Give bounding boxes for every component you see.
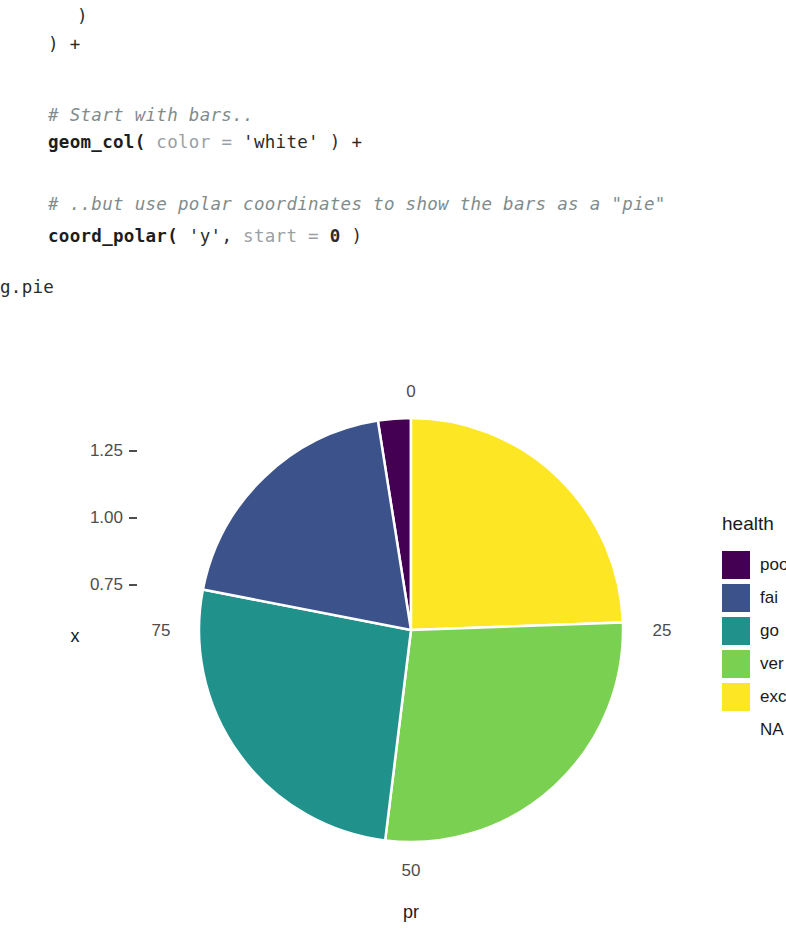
code-line: coord_polar( 'y', start = 0 )	[48, 228, 362, 246]
legend-item[interactable]: ver	[722, 650, 786, 678]
code-token: 'y'	[178, 226, 221, 246]
legend-item-label: ver	[760, 654, 784, 674]
legend-item[interactable]: poo	[722, 551, 786, 579]
code-token: # Start with bars..	[48, 105, 254, 125]
legend-entries: poofaigoverexcNA	[722, 551, 786, 744]
legend-item-label: go	[760, 621, 779, 641]
code-token: geom_col(	[48, 132, 146, 152]
code-token: 0	[330, 226, 341, 246]
code-line: )	[77, 8, 88, 26]
code-token: coord_polar(	[48, 226, 178, 246]
code-token: ,	[221, 226, 243, 246]
pie-chart-figure: poorexcellentvery goodgoodfair 0 25 50 7…	[0, 330, 786, 936]
code-token: color =	[146, 132, 244, 152]
code-line: # Start with bars..	[48, 107, 254, 125]
code-token: ) +	[319, 132, 362, 152]
legend-item-label: exc	[760, 687, 786, 707]
cell-output-variable-label: g.pie	[0, 277, 54, 297]
legend: health poofaigoverexcNA	[722, 514, 786, 749]
legend-swatch-icon	[722, 584, 750, 612]
legend-item-label: poo	[760, 555, 786, 575]
code-token: )	[341, 226, 363, 246]
legend-swatch-icon	[722, 683, 750, 711]
legend-swatch-icon	[722, 551, 750, 579]
legend-item[interactable]: exc	[722, 683, 786, 711]
code-token: # ..but use polar coordinates to show th…	[48, 194, 666, 214]
legend-swatch-icon	[722, 716, 750, 744]
code-token: ) +	[48, 34, 81, 54]
code-line: geom_col( color = 'white' ) +	[48, 134, 362, 152]
code-token: 'white'	[243, 132, 319, 152]
code-token: start =	[243, 226, 330, 246]
legend-title: health	[722, 514, 786, 533]
code-line: ) +	[48, 36, 81, 54]
legend-item-label: NA	[760, 720, 784, 740]
pie-slices-group: poorexcellentvery goodgoodfair	[199, 418, 623, 842]
code-token: )	[77, 6, 88, 26]
legend-swatch-icon	[722, 617, 750, 645]
legend-item[interactable]: fai	[722, 584, 786, 612]
legend-item[interactable]: NA	[722, 716, 786, 744]
legend-item-label: fai	[760, 588, 778, 608]
legend-item[interactable]: go	[722, 617, 786, 645]
pie-chart-svg: poorexcellentvery goodgoodfair	[0, 330, 786, 936]
code-line: # ..but use polar coordinates to show th…	[48, 196, 666, 214]
legend-swatch-icon	[722, 650, 750, 678]
